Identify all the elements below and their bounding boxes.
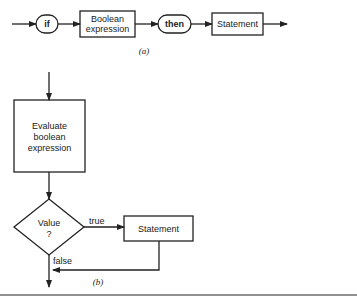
if-then-diagram: if Boolean expression then Statement (a)… [0,0,357,303]
caption-b: (b) [93,277,104,287]
boolean-label-2: expression [86,24,130,34]
evaluate-label-3: expression [28,143,72,153]
decision-label-2: ? [46,229,51,239]
boolean-label-1: Boolean [91,14,124,24]
statement-label: Statement [138,224,180,234]
decision-label-1: Value [38,218,60,228]
true-label: true [89,216,105,226]
evaluate-label-1: Evaluate [32,121,67,131]
evaluate-label-2: boolean [33,132,65,142]
caption-a: (a) [139,46,150,56]
statement-label: Statement [217,19,259,29]
false-label: false [53,256,72,266]
then-label: then [165,19,184,29]
if-label: if [44,19,51,29]
